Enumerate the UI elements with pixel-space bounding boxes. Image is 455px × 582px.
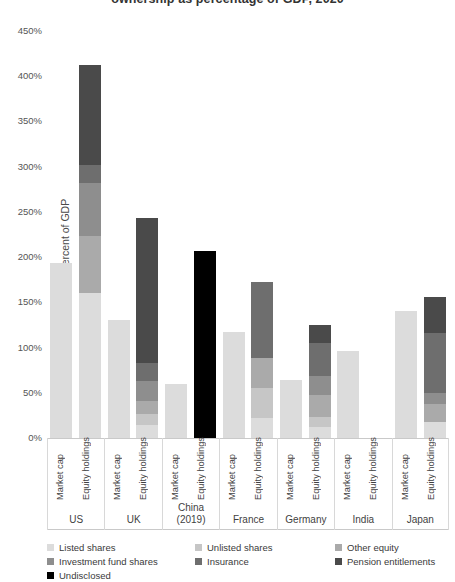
y-tick-label: 350% [2, 115, 42, 126]
bar-group [162, 31, 219, 438]
bar-segment[interactable] [136, 401, 158, 415]
bar-series-container [47, 31, 449, 438]
legend-item[interactable]: Insurance [195, 556, 335, 567]
bar-segment[interactable] [280, 380, 302, 438]
legend-item[interactable]: Undisclosed [47, 570, 195, 581]
bar-segment[interactable] [79, 236, 101, 293]
y-tick-label: 300% [2, 161, 42, 172]
bar-equity-holdings[interactable] [79, 65, 101, 438]
bar-segment[interactable] [165, 384, 187, 438]
bar-segment[interactable] [251, 388, 273, 418]
x-sublabel-equity-holdings: Equity holdings [368, 437, 378, 500]
bar-segment[interactable] [136, 414, 158, 425]
bar-equity-holdings[interactable] [251, 282, 273, 438]
x-country-label: France [220, 514, 276, 526]
x-axis-group: Market capEquity holdingsIndia [334, 438, 391, 530]
x-axis-group: Market capEquity holdingsChina(2019) [162, 438, 219, 530]
legend-swatch-icon [47, 558, 54, 565]
legend-row: Listed sharesUnlisted sharesOther equity [47, 540, 449, 554]
bar-segment[interactable] [79, 293, 101, 438]
bar-segment[interactable] [251, 418, 273, 438]
legend-label: Unlisted shares [207, 542, 272, 553]
bar-segment[interactable] [136, 381, 158, 401]
bar-segment[interactable] [251, 282, 273, 358]
chart-legend: Listed sharesUnlisted sharesOther equity… [47, 540, 449, 582]
legend-label: Insurance [207, 556, 249, 567]
legend-label: Listed shares [59, 542, 116, 553]
bar-segment[interactable] [79, 165, 101, 183]
plot-area: percent of GDP 0%50%100%150%200%250%300%… [47, 31, 449, 438]
x-country-label: China(2019) [163, 502, 219, 526]
legend-swatch-icon [47, 572, 54, 579]
legend-item[interactable]: Listed shares [47, 542, 195, 553]
x-sublabel-market-cap: Market cap [55, 454, 65, 500]
x-axis-labels: Market capEquity holdingsUSMarket capEqu… [47, 438, 449, 530]
bar-segment[interactable] [79, 65, 101, 164]
legend-row: Undisclosed [47, 568, 449, 582]
legend-swatch-icon [195, 544, 202, 551]
bar-market-cap[interactable] [337, 351, 359, 438]
bar-market-cap[interactable] [165, 384, 187, 438]
bar-equity-holdings[interactable] [309, 325, 331, 438]
x-country-label: UK [105, 514, 161, 526]
bar-equity-holdings[interactable] [194, 251, 216, 438]
y-tick-label: 0% [2, 432, 42, 443]
bar-segment[interactable] [424, 404, 446, 422]
bar-market-cap[interactable] [395, 311, 417, 438]
bar-segment[interactable] [50, 263, 72, 438]
x-sublabel-market-cap: Market cap [400, 454, 410, 500]
bar-group [392, 31, 449, 438]
bar-segment[interactable] [309, 343, 331, 376]
x-country-label: US [48, 514, 104, 526]
legend-swatch-icon [335, 558, 342, 565]
chart-title: ownership as percentage of GDP, 2020 [0, 0, 455, 7]
x-sublabel-equity-holdings: Equity holdings [426, 437, 436, 500]
bar-group [277, 31, 334, 438]
bar-market-cap[interactable] [50, 263, 72, 438]
legend-swatch-icon [47, 544, 54, 551]
legend-item[interactable]: Pension entitlements [335, 556, 435, 567]
x-sublabel-market-cap: Market cap [170, 454, 180, 500]
bar-segment[interactable] [309, 325, 331, 343]
bar-segment[interactable] [108, 320, 130, 438]
x-sublabel-equity-holdings: Equity holdings [253, 437, 263, 500]
bar-segment[interactable] [424, 333, 446, 393]
bar-market-cap[interactable] [223, 332, 245, 438]
legend-item[interactable]: Unlisted shares [195, 542, 335, 553]
bar-segment[interactable] [424, 297, 446, 333]
y-tick-label: 100% [2, 342, 42, 353]
bar-segment[interactable] [309, 395, 331, 418]
x-sublabel-equity-holdings: Equity holdings [311, 437, 321, 500]
legend-row: Investment fund sharesInsurancePension e… [47, 554, 449, 568]
bar-segment[interactable] [251, 358, 273, 388]
bar-segment[interactable] [309, 417, 331, 427]
bar-equity-holdings[interactable] [424, 297, 446, 438]
y-tick-label: 400% [2, 70, 42, 81]
x-axis-group: Market capEquity holdingsGermany [277, 438, 334, 530]
bar-market-cap[interactable] [108, 320, 130, 438]
bar-segment[interactable] [424, 393, 446, 404]
bar-segment[interactable] [395, 311, 417, 438]
bar-segment[interactable] [136, 218, 158, 363]
legend-item[interactable]: Other equity [335, 542, 399, 553]
x-axis-group: Market capEquity holdingsUK [104, 438, 161, 530]
y-tick-label: 450% [2, 25, 42, 36]
y-tick-label: 200% [2, 251, 42, 262]
bar-group [104, 31, 161, 438]
bar-market-cap[interactable] [280, 380, 302, 438]
bar-segment[interactable] [194, 251, 216, 438]
bar-group [219, 31, 276, 438]
bar-equity-holdings[interactable] [136, 218, 158, 438]
bar-segment[interactable] [424, 422, 446, 438]
bar-segment[interactable] [79, 183, 101, 236]
x-sublabel-equity-holdings: Equity holdings [81, 437, 91, 500]
bar-segment[interactable] [136, 363, 158, 381]
x-country-label: Japan [393, 514, 448, 526]
bar-segment[interactable] [223, 332, 245, 438]
legend-label: Pension entitlements [347, 556, 435, 567]
legend-item[interactable]: Investment fund shares [47, 556, 195, 567]
bar-segment[interactable] [337, 351, 359, 438]
x-sublabel-market-cap: Market cap [112, 454, 122, 500]
bar-segment[interactable] [309, 376, 331, 395]
